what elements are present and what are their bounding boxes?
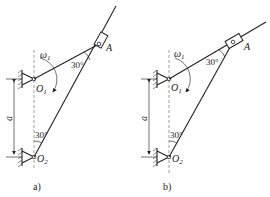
ground-support-o1 [153, 70, 171, 89]
angle-label-top: 30° [71, 60, 84, 70]
label-a-point: A [243, 41, 251, 52]
ground-support-o2 [153, 148, 171, 167]
mechanism-diagram: a ω1 30° 30° O1 O2 A a) [0, 0, 270, 197]
angle-label-top: 30° [206, 57, 219, 67]
angle-arc-top [219, 50, 225, 57]
omega-label: ω1 [174, 48, 185, 61]
label-a-point: A [105, 42, 113, 53]
angle-label-bottom: 30° [170, 130, 183, 140]
ground-support-o1 [18, 70, 36, 89]
panel-a: a ω1 30° 30° O1 O2 A a) [3, 6, 116, 193]
caption-a: a) [33, 181, 41, 193]
dimension-a: a [138, 79, 157, 157]
label-o2: O2 [172, 153, 183, 166]
dimension-a: a [3, 79, 22, 157]
angle-label-bottom: 30° [35, 130, 48, 140]
caption-b: b) [163, 181, 171, 193]
angle-arc-bottom [34, 141, 42, 143]
label-o2: O2 [37, 153, 48, 166]
angle-arc-bottom [169, 141, 177, 143]
label-o1: O1 [36, 83, 47, 96]
panel-b: a ω1 30° 30° O1 O2 A b) [138, 22, 266, 193]
dimension-label: a [3, 116, 14, 121]
ground-support-o2 [18, 148, 36, 167]
dimension-label: a [138, 116, 149, 121]
label-o1: O1 [171, 82, 182, 95]
